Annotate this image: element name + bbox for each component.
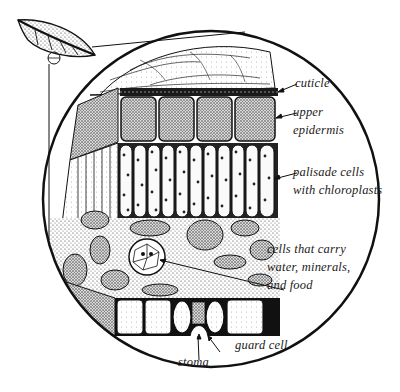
label-upper-epidermis-line1: upper	[293, 104, 323, 121]
guard-cell-left	[173, 301, 191, 333]
guard-cell-right	[206, 301, 224, 333]
label-palisade-line1: palisade cells	[293, 164, 364, 181]
label-upper-epidermis-line2: epidermis	[293, 122, 344, 139]
connector-line-top	[92, 32, 245, 47]
label-guard-cell: guard cell	[235, 337, 288, 354]
label-vein-line1: cells that carry	[267, 241, 346, 258]
leaf-cross-section-diagram: cuticle upper epidermis palisade cells w…	[0, 0, 400, 392]
label-palisade-line2: with chloroplasts	[293, 182, 382, 199]
leaf-icon	[18, 20, 95, 64]
label-stoma: stoma	[178, 354, 209, 371]
label-vein-line3: and food	[267, 277, 313, 294]
label-cuticle: cuticle	[295, 75, 330, 92]
label-vein-line2: water, minerals,	[267, 259, 350, 276]
